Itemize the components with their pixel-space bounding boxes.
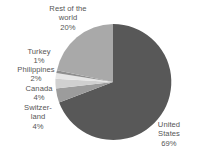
pie-label-turkey: Turkey 1% — [8, 47, 70, 66]
pie-label-canada: Canada 4% — [8, 84, 70, 103]
pie-chart-figure: Rest of the world 20% Turkey 1% Philippi… — [0, 0, 201, 167]
pie-label-rest-of-world: Rest of the world 20% — [26, 4, 110, 32]
pie-label-switzerland: Switzer- land 4% — [6, 103, 70, 131]
pie-label-united-states: United States 69% — [143, 120, 195, 148]
pie-label-philippines: Philippines 2% — [2, 65, 70, 84]
